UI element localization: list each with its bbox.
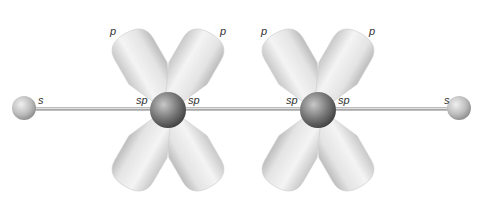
acetylene-orbital-diagram <box>0 0 483 216</box>
label-p-4: p <box>369 26 375 37</box>
label-sp-c2-left: sp <box>286 95 298 106</box>
label-s-right: s <box>444 95 450 106</box>
hydrogen-atom-right <box>447 96 471 120</box>
carbon-atom-2 <box>300 92 336 128</box>
label-p-1: p <box>110 26 116 37</box>
hydrogen-atom-left <box>12 96 36 120</box>
label-sp-c1-right: sp <box>188 95 200 106</box>
label-sp-c2-right: sp <box>338 95 350 106</box>
label-p-3: p <box>261 26 267 37</box>
label-p-2: p <box>220 26 226 37</box>
label-sp-c1-left: sp <box>136 95 148 106</box>
caption-fragment: Acetylene bonding: sp hybrid and p orbit… <box>10 0 220 6</box>
label-s-left: s <box>38 95 44 106</box>
carbon-atom-1 <box>150 92 186 128</box>
